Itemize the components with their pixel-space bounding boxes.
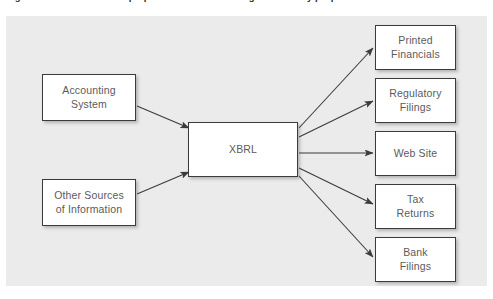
- arrow-other-sources-to-xbrl: [137, 172, 189, 194]
- node-xbrl-label: XBRL: [225, 143, 261, 157]
- node-regulatory-filings: Regulatory Filings: [375, 78, 456, 123]
- arrow-accounting-system-to-xbrl: [137, 106, 189, 128]
- arrow-xbrl-to-bank-filings: [299, 176, 373, 257]
- node-regulatory-filings-label: Regulatory Filings: [385, 87, 445, 114]
- node-printed-financials: Printed Financials: [375, 25, 456, 70]
- arrow-xbrl-to-regulatory-filings: [299, 101, 373, 137]
- node-web-site-label: Web Site: [390, 147, 442, 161]
- node-accounting-system-label: Accounting System: [58, 84, 119, 111]
- node-bank-filings: Bank Filings: [375, 237, 456, 282]
- node-bank-filings-label: Bank Filings: [396, 246, 435, 273]
- figure-caption-text: XBRL data is prepared once and used agai…: [66, 0, 358, 2]
- node-other-sources-label: Other Sources of Information: [50, 189, 128, 216]
- node-xbrl: XBRL: [188, 122, 298, 177]
- node-tax-returns: Tax Returns: [375, 184, 456, 229]
- figure-caption: Figure 10.2XBRL data is prepared once an…: [6, 0, 486, 3]
- node-tax-returns-label: Tax Returns: [393, 193, 439, 220]
- figure-number: Figure 10.2: [6, 0, 57, 2]
- arrow-xbrl-to-printed-financials: [299, 48, 373, 128]
- node-other-sources: Other Sources of Information: [42, 179, 136, 226]
- node-web-site: Web Site: [375, 131, 456, 176]
- node-printed-financials-label: Printed Financials: [387, 34, 444, 61]
- arrow-xbrl-to-tax-returns: [299, 168, 373, 204]
- diagram-panel: Accounting System Other Sources of Infor…: [6, 16, 487, 286]
- node-accounting-system: Accounting System: [42, 74, 136, 121]
